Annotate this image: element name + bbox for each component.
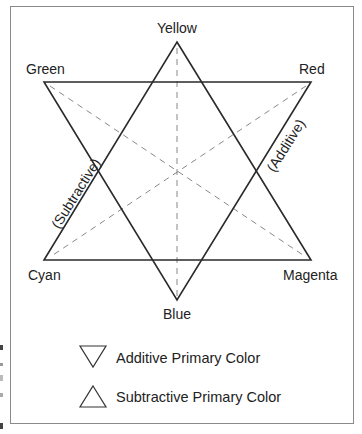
label-green: Green: [26, 61, 65, 77]
label-blue: Blue: [163, 306, 191, 322]
label-cyan: Cyan: [28, 267, 61, 283]
label-yellow: Yellow: [157, 20, 198, 36]
down-triangle-icon: [80, 346, 106, 367]
color-star-diagram: Yellow Green Red Cyan Magenta Blue (Addi…: [0, 0, 362, 434]
edge-label-subtractive: (Subtractive): [48, 155, 104, 231]
label-red: Red: [299, 61, 325, 77]
legend: Additive Primary Color Subtractive Prima…: [80, 346, 281, 407]
legend-subtractive-label: Subtractive Primary Color: [116, 389, 281, 405]
edge-label-additive: (Additive): [263, 116, 308, 175]
legend-additive-label: Additive Primary Color: [116, 350, 260, 366]
up-triangle-icon: [80, 386, 106, 407]
label-magenta: Magenta: [283, 267, 338, 283]
